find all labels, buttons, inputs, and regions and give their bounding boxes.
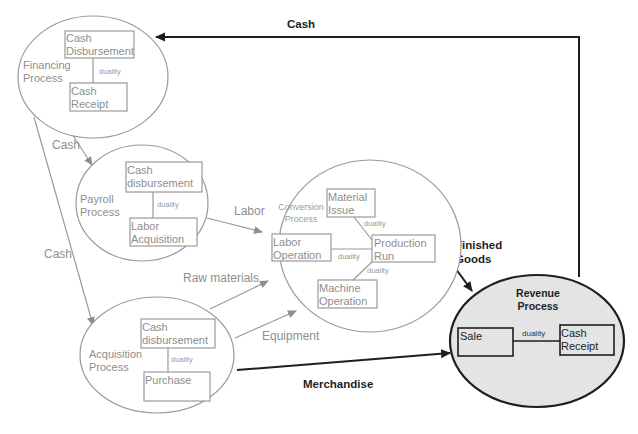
conversion-process-label-line1: Conversion [278,202,324,212]
flow-label-labor: Labor [234,204,265,218]
event-cash-disbursement-acquisition-line1: Cash [142,321,168,333]
raw-materials-flow: Raw materials [183,271,268,309]
event-production-run-line1: Production [374,237,427,249]
financing-process-label-line2: Process [23,72,63,84]
event-sale-line1: Sale [460,330,482,342]
revenue-process-label-line1: Revenue [516,287,560,299]
event-cash-disbursement-financing-line2: Disbursement [66,45,134,57]
event-cash-disbursement-payroll-line2: disbursement [127,177,193,189]
acquisition-process: Acquisition Process duality Cash disburs… [80,297,234,413]
event-material-issue-line2: Issue [328,204,354,216]
equipment-flow: Equipment [235,311,320,343]
conversion-process: Conversion Process duality duality duali… [272,160,461,332]
flow-label-finished-goods-line1: Finished [455,239,502,251]
event-cash-disbursement-acquisition-line2: disbursement [142,334,208,346]
revenue-process: Revenue Process duality Sale Cash Receip… [450,275,624,407]
payroll-process: Payroll Process duality Cash disbursemen… [76,145,208,261]
event-cash-receipt-revenue-line2: Receipt [561,340,598,352]
financing-process: Financing Process duality Cash Disbursem… [18,16,168,138]
flow-label-cash-top: Cash [287,18,315,30]
acquisition-duality-label: duality [171,355,193,364]
event-labor-acquisition-line2: Acquisition [131,233,184,245]
financing-process-label-line1: Financing [23,59,71,71]
merchandise-arrow [237,353,450,370]
flow-label-raw-materials: Raw materials [183,271,259,285]
event-purchase-line1: Purchase [145,374,191,386]
revenue-duality-label: duality [522,329,545,338]
acquisition-process-label-line2: Process [89,361,129,373]
flow-label-equipment: Equipment [262,329,320,343]
event-machine-operation-line1: Machine [319,282,361,294]
revenue-process-label-line2: Process [518,300,559,312]
flow-label-merchandise: Merchandise [303,378,373,390]
event-cash-disbursement-payroll-line1: Cash [127,164,153,176]
merchandise-flow: Merchandise [237,353,450,390]
conversion-process-label-line2: Process [285,214,318,224]
conversion-duality-label-material: duality [364,219,386,228]
event-production-run-line2: Run [374,250,394,262]
event-labor-operation-line1: Labor [273,236,301,248]
payroll-duality-label: duality [157,200,179,209]
event-material-issue-line1: Material [328,191,367,203]
financing-duality-label: duality [99,67,121,76]
acquisition-process-label-line1: Acquisition [89,348,142,360]
event-machine-operation-line2: Operation [319,295,367,307]
event-cash-disbursement-financing-line1: Cash [66,32,92,44]
labor-arrow [207,218,262,232]
flow-label-cash-payroll: Cash [52,138,80,152]
event-cash-receipt-revenue-line1: Cash [561,327,587,339]
flow-label-cash-acquisition: Cash [44,247,72,261]
event-labor-acquisition-line1: Labor [131,220,159,232]
event-labor-operation-line2: Operation [273,249,321,261]
value-chain-diagram: Cash Cash Cash Labor Raw materials Equip… [0,0,638,434]
payroll-process-label-line2: Process [80,206,120,218]
event-cash-receipt-financing-line1: Cash [71,85,97,97]
payroll-process-label-line1: Payroll [80,193,114,205]
conversion-duality-label-machine: duality [367,266,389,275]
labor-flow: Labor [207,204,265,232]
event-cash-receipt-financing-line2: Receipt [71,98,108,110]
conversion-duality-label-labor: duality [338,252,360,261]
raw-materials-arrow [210,281,268,309]
